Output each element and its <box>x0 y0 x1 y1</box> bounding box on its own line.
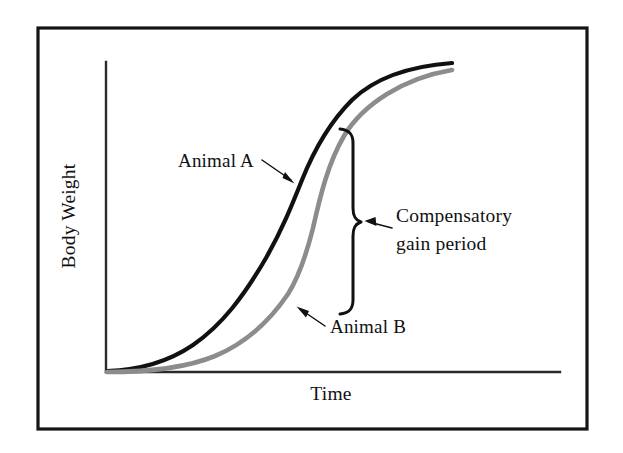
x-axis-label: Time <box>310 383 351 404</box>
compensatory-gain-brace <box>340 129 361 314</box>
figure-container: Body Weight Time Animal A Animal B Compe… <box>0 0 623 453</box>
compensatory-gain-label-line1: Compensatory <box>396 205 512 226</box>
animal-a-label: Animal A <box>178 150 254 171</box>
y-axis-label: Body Weight <box>58 163 79 268</box>
animal-b-label: Animal B <box>330 316 406 337</box>
compensatory-gain-label-line2: gain period <box>396 233 487 254</box>
compensatory-gain-arrow-head <box>365 217 377 226</box>
animal-b-arrow-head <box>297 307 310 318</box>
animal-a-arrow-head <box>283 172 295 184</box>
growth-curve-chart: Body Weight Time Animal A Animal B Compe… <box>0 0 623 453</box>
